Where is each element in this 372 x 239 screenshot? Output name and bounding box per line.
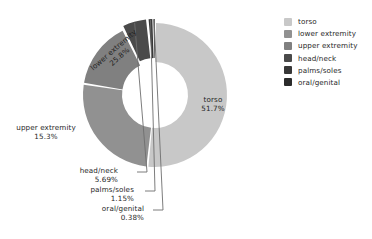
slice-label-palms-soles-name: palms/soles [90, 185, 134, 194]
chart-legend: torsolower extremityupper extremityhead/… [284, 17, 358, 87]
slice-label-oral-genital-pct: 0.38% [58, 214, 144, 223]
donut-chart-area: torso 51.7% lower extremity 25.8% upper … [0, 0, 282, 239]
slice-label-head-neck-pct: 5.69% [58, 176, 118, 185]
slice-label-upper-extremity-pct: 15.3% [4, 133, 88, 142]
legend-swatch [284, 78, 292, 86]
legend-item-label: palms/soles [298, 66, 342, 75]
slice-label-torso: torso 51.7% [182, 96, 244, 114]
slice-label-oral-genital-name: oral/genital [102, 204, 144, 213]
slice-label-head-neck-name: head/neck [80, 166, 118, 175]
legend-item-label: oral/genital [298, 78, 340, 87]
legend-item-label: torso [298, 17, 317, 26]
slice-label-upper-extremity: upper extremity 15.3% [4, 124, 88, 142]
legend-item[interactable]: upper extremity [284, 41, 358, 50]
legend-item[interactable]: head/neck [284, 54, 358, 63]
legend-item-label: upper extremity [298, 41, 358, 50]
slice-label-palms-soles: palms/soles 1.15% [58, 186, 134, 204]
legend-swatch [284, 54, 292, 62]
slice-label-palms-soles-pct: 1.15% [58, 195, 134, 204]
slice-label-upper-extremity-name: upper extremity [16, 123, 76, 132]
legend-item-label: lower extremity [298, 29, 356, 38]
legend-swatch [284, 66, 292, 74]
legend-item[interactable]: lower extremity [284, 29, 358, 38]
legend-item-label: head/neck [298, 54, 336, 63]
legend-item[interactable]: oral/genital [284, 78, 358, 87]
slice-label-oral-genital: oral/genital 0.38% [58, 205, 144, 223]
legend-swatch [284, 18, 292, 26]
legend-item[interactable]: palms/soles [284, 66, 358, 75]
slice-label-torso-pct: 51.7% [182, 105, 244, 114]
slice-label-torso-name: torso [204, 95, 223, 104]
chart-page: torso 51.7% lower extremity 25.8% upper … [0, 0, 372, 239]
legend-swatch [284, 30, 292, 38]
slice-label-head-neck: head/neck 5.69% [58, 167, 118, 185]
legend-swatch [284, 42, 292, 50]
legend-item[interactable]: torso [284, 17, 358, 26]
